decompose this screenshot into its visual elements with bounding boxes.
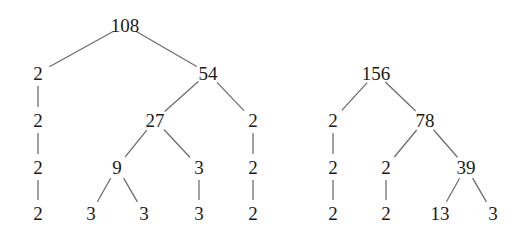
tree-node: 2 [248, 158, 258, 177]
tree-node: 3 [488, 204, 498, 223]
tree-node: 54 [199, 64, 218, 83]
tree-edge [473, 178, 487, 202]
tree-node: 2 [33, 64, 43, 83]
tree-node: 13 [431, 204, 450, 223]
tree-edge [136, 32, 196, 67]
tree-edge [446, 178, 459, 201]
tree-edge [165, 82, 199, 112]
tree-edge [217, 82, 244, 110]
tree-node: 2 [33, 111, 43, 130]
tree-node: 39 [457, 158, 476, 177]
tree-edge [164, 130, 190, 158]
tree-edge [434, 130, 458, 157]
tree-node: 2 [248, 111, 258, 130]
tree-edge [385, 82, 415, 111]
factor-tree-diagram: 1082542272293223332156278223922133 [0, 0, 522, 235]
tree-node: 3 [139, 204, 149, 223]
tree-edges [0, 0, 522, 235]
tree-root-node: 156 [362, 64, 391, 83]
tree-node: 78 [416, 111, 435, 130]
tree-node: 2 [328, 204, 338, 223]
tree-node: 3 [194, 158, 204, 177]
tree-edge [394, 130, 416, 157]
tree-edge [97, 178, 110, 201]
tree-node: 3 [194, 204, 204, 223]
tree-edge [49, 31, 113, 66]
tree-node: 2 [381, 204, 391, 223]
tree-node: 2 [33, 158, 43, 177]
tree-node: 2 [33, 204, 43, 223]
tree-node: 2 [328, 111, 338, 130]
tree-node: 27 [146, 111, 165, 130]
tree-node: 9 [112, 158, 122, 177]
tree-node: 2 [328, 158, 338, 177]
tree-root-node: 108 [111, 16, 140, 35]
tree-edge [125, 130, 147, 157]
tree-edge [342, 83, 367, 111]
tree-node: 3 [86, 204, 96, 223]
tree-node: 2 [248, 204, 258, 223]
tree-edge [124, 178, 138, 202]
tree-node: 2 [381, 158, 391, 177]
